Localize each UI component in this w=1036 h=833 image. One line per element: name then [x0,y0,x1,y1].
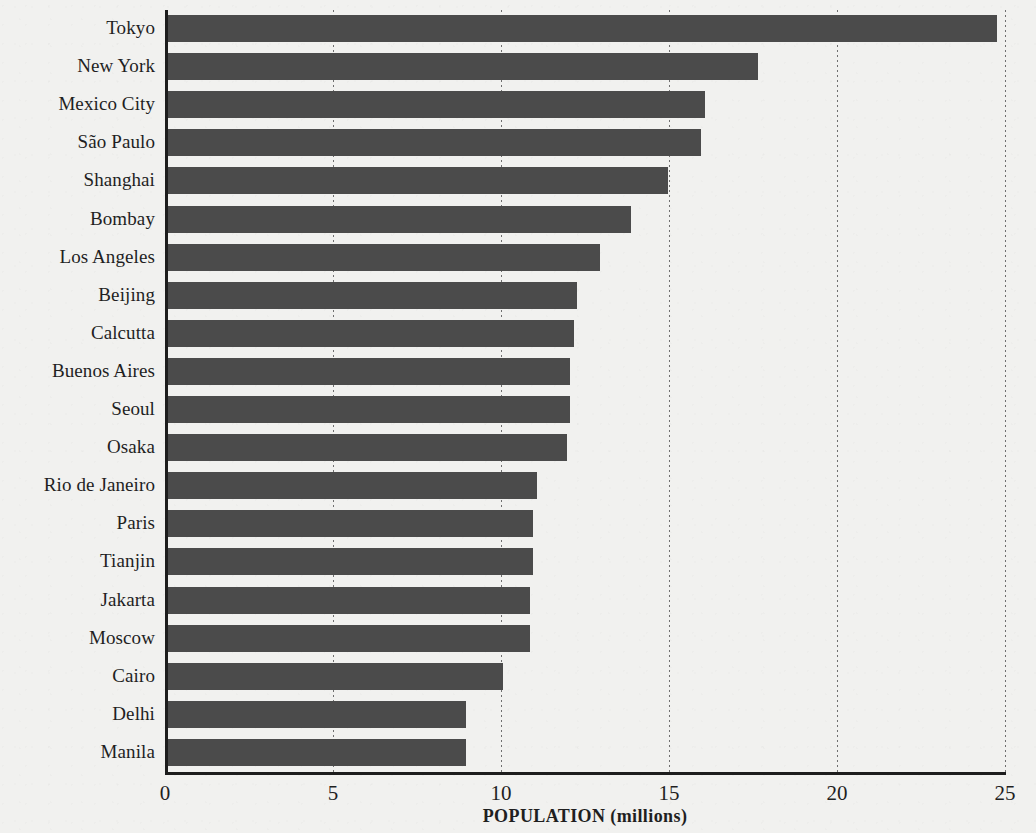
bar [167,91,705,118]
y-axis-label: Buenos Aires [0,361,155,381]
x-tick-20: 20 [827,781,848,805]
plot-area [165,10,1005,775]
bar [167,701,466,728]
bar [167,739,466,766]
y-axis-category-labels: TokyoNew YorkMexico CitySão PauloShangha… [0,10,155,775]
bar-row [167,696,1005,734]
bar-row [167,10,1005,48]
y-axis-label: Calcutta [0,323,155,343]
bar [167,663,503,690]
bar [167,548,533,575]
y-axis-label: São Paulo [0,132,155,152]
bar-row [167,734,1005,772]
bar [167,472,537,499]
bar [167,53,758,80]
y-axis-label: Jakarta [0,590,155,610]
bar [167,282,577,309]
bar-row [167,467,1005,505]
y-axis-line [165,10,168,775]
x-axis-line [165,772,1006,775]
bar [167,396,570,423]
x-tick-10: 10 [491,781,512,805]
x-tick-25: 25 [995,781,1016,805]
bar [167,434,567,461]
bar-row [167,582,1005,620]
y-axis-label: Osaka [0,437,155,457]
bar-row [167,620,1005,658]
bar [167,358,570,385]
bar [167,587,530,614]
bar-row [167,658,1005,696]
bar-row [167,391,1005,429]
gridline-25 [1005,10,1006,774]
y-axis-label: Paris [0,513,155,533]
bar-row [167,239,1005,277]
bar-row [167,277,1005,315]
bar [167,510,533,537]
bar [167,167,668,194]
y-axis-label: Shanghai [0,170,155,190]
bar [167,206,631,233]
y-axis-label: Rio de Janeiro [0,475,155,495]
population-bar-chart-figure: TokyoNew YorkMexico CitySão PauloShangha… [0,0,1036,833]
y-axis-label: Seoul [0,399,155,419]
bar [167,15,997,42]
y-axis-label: Bombay [0,209,155,229]
y-axis-label: Manila [0,742,155,762]
bar [167,129,701,156]
bar-row [167,48,1005,86]
bar-row [167,353,1005,391]
x-tick-5: 5 [328,781,339,805]
bar-row [167,505,1005,543]
bar-series [167,10,1005,772]
y-axis-label: Cairo [0,666,155,686]
bar-row [167,86,1005,124]
y-axis-label: Mexico City [0,94,155,114]
bar-row [167,124,1005,162]
bar-row [167,429,1005,467]
bar-row [167,162,1005,200]
x-tick-15: 15 [659,781,680,805]
x-tick-0: 0 [160,781,171,805]
bar-row [167,201,1005,239]
bar [167,244,600,271]
y-axis-label: Los Angeles [0,247,155,267]
bar-row [167,315,1005,353]
y-axis-label: Delhi [0,704,155,724]
y-axis-label: Moscow [0,628,155,648]
y-axis-label: Tokyo [0,18,155,38]
y-axis-label: Tianjin [0,551,155,571]
y-axis-label: New York [0,56,155,76]
bar [167,625,530,652]
bar [167,320,574,347]
y-axis-label: Beijing [0,285,155,305]
bar-row [167,543,1005,581]
x-axis-title: POPULATION (millions) [165,806,1005,827]
